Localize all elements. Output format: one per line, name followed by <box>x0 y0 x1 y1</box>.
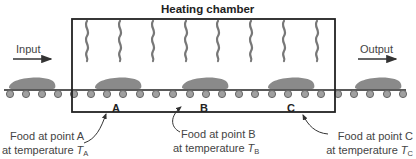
food-item-input <box>9 78 55 89</box>
heat-wave-icon <box>283 21 285 61</box>
temperature-symbol: T <box>401 144 408 156</box>
caption-point-a: Food at point A at temperature TA <box>2 129 84 159</box>
heat-wave-icon <box>217 21 219 61</box>
temperature-subscript: A <box>83 149 88 158</box>
food-item-c <box>268 78 314 89</box>
roller <box>22 90 29 97</box>
input-label: Input <box>16 44 40 55</box>
heat-wave-icon <box>250 21 252 61</box>
heat-wave-icon <box>185 21 187 61</box>
output-label: Output <box>360 44 393 55</box>
caption-c-line1: Food at point C <box>313 129 413 143</box>
pointer-arrow-a-icon <box>84 114 106 143</box>
heat-wave-icon <box>119 21 121 61</box>
roller <box>169 90 176 97</box>
roller <box>301 90 308 97</box>
caption-b-line1: Food at point B <box>173 127 273 141</box>
caption-c-line2: at temperature TC <box>313 143 413 159</box>
roller <box>268 90 275 97</box>
point-label-a: A <box>112 103 120 114</box>
caption-b-line2: at temperature TB <box>173 141 273 159</box>
roller <box>136 90 143 97</box>
chamber-title: Heating chamber <box>161 4 254 16</box>
caption-point-c: Food at point C at temperature TC <box>313 129 413 159</box>
point-label-c: C <box>287 103 295 114</box>
caption-a-line2: at temperature TA <box>2 143 84 159</box>
roller <box>87 90 94 97</box>
roller <box>6 90 13 97</box>
food-item-a <box>95 78 141 89</box>
roller <box>152 90 159 97</box>
roller <box>119 90 126 97</box>
roller <box>383 90 390 97</box>
roller <box>202 90 209 97</box>
roller <box>399 90 406 97</box>
roller <box>251 90 258 97</box>
roller <box>54 90 61 97</box>
temperature-subscript: B <box>254 147 259 156</box>
heat-wave-icon <box>152 21 154 61</box>
roller <box>366 90 373 97</box>
roller <box>218 90 225 97</box>
roller <box>284 90 291 97</box>
heat-waves <box>86 21 318 61</box>
roller <box>235 90 242 97</box>
caption-point-b: Food at point B at temperature TB <box>173 127 273 159</box>
conveyor-rollers <box>6 90 406 97</box>
heat-wave-icon <box>86 21 88 61</box>
roller <box>103 90 110 97</box>
roller <box>186 90 193 97</box>
food-items <box>9 78 401 89</box>
food-item-b <box>182 78 228 89</box>
roller <box>350 90 357 97</box>
heating-chamber-box <box>72 19 335 112</box>
roller <box>317 90 324 97</box>
heat-wave-icon <box>316 21 318 61</box>
caption-a-line1: Food at point A <box>2 129 84 143</box>
roller <box>38 90 45 97</box>
point-label-b: B <box>200 103 208 114</box>
food-item-output <box>355 78 401 89</box>
temperature-subscript: C <box>408 149 413 158</box>
